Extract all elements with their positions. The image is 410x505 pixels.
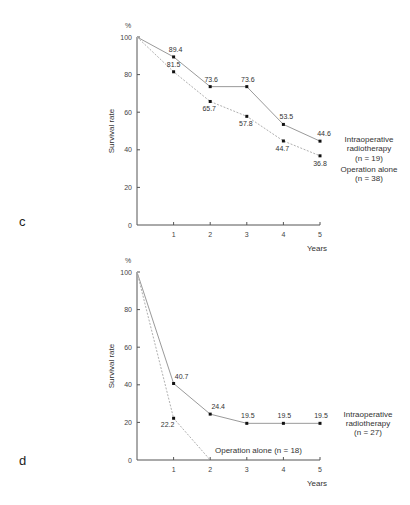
data-point	[319, 140, 322, 143]
x-tick-label: 2	[208, 231, 212, 238]
data-point	[209, 85, 212, 88]
data-label: 40.7	[175, 373, 189, 380]
x-tick-label: 1	[172, 231, 176, 238]
y-tick-label: 40	[124, 146, 132, 153]
panel-label-c: c	[19, 214, 26, 229]
data-point	[319, 154, 322, 157]
y-unit: %	[125, 22, 131, 29]
data-label: 19.5	[241, 412, 255, 419]
series-line-intraoperative	[137, 37, 320, 141]
data-label: 73.6	[204, 76, 218, 83]
x-tick-label: 5	[318, 466, 322, 473]
data-point	[245, 422, 248, 425]
data-label: 53.5	[280, 113, 294, 120]
data-point	[245, 115, 248, 118]
data-label: 44.7	[276, 145, 290, 152]
y-tick-label: 0	[128, 457, 132, 464]
data-label: 65.7	[202, 105, 216, 112]
data-label: 36.8	[313, 160, 327, 167]
data-point	[319, 422, 322, 425]
x-tick-label: 3	[245, 231, 249, 238]
series-line-intraoperative	[137, 272, 320, 423]
legend-operation-alone: Operation alone (n = 18)	[215, 446, 302, 455]
x-tick-label: 4	[281, 466, 285, 473]
figure: 020406080100%12345YearsSurvival rate89.4…	[0, 0, 410, 505]
data-point	[209, 100, 212, 103]
y-axis-title: Survival rate	[107, 108, 116, 153]
legend-intraoperative-n: (n = 19)	[355, 154, 383, 163]
data-label: 19.5	[278, 412, 292, 419]
data-point	[282, 139, 285, 142]
y-tick-label: 20	[124, 184, 132, 191]
chart-c: 020406080100%12345YearsSurvival rate89.4…	[107, 22, 398, 253]
data-point	[282, 123, 285, 126]
data-point	[172, 382, 175, 385]
legend-operation-alone-n: (n = 38)	[355, 174, 383, 183]
y-tick-label: 80	[124, 306, 132, 313]
data-label: 22.2	[161, 421, 175, 428]
y-tick-label: 0	[128, 222, 132, 229]
legend-operation-alone: Operation alone	[341, 165, 398, 174]
data-point	[245, 85, 248, 88]
series-line-operation-alone	[137, 272, 210, 460]
series-line-operation-alone	[137, 37, 320, 156]
data-point	[172, 70, 175, 73]
data-point	[282, 422, 285, 425]
chart-d: 020406080100%12345YearsSurvival rate40.7…	[107, 257, 393, 488]
x-tick-label: 3	[245, 466, 249, 473]
data-label: 24.4	[211, 403, 225, 410]
y-tick-label: 100	[120, 34, 132, 41]
x-axis-title: Years	[307, 244, 327, 253]
x-axis-title: Years	[307, 479, 327, 488]
y-tick-label: 20	[124, 419, 132, 426]
y-tick-label: 40	[124, 381, 132, 388]
panel-label-d: d	[19, 453, 26, 468]
data-point	[209, 413, 212, 416]
y-tick-label: 100	[120, 269, 132, 276]
x-tick-label: 1	[172, 466, 176, 473]
x-tick-label: 4	[281, 231, 285, 238]
data-label: 81.5	[167, 61, 181, 68]
y-tick-label: 60	[124, 344, 132, 351]
data-point	[172, 55, 175, 58]
data-label: 89.4	[169, 46, 183, 53]
data-label: 19.5	[314, 412, 328, 419]
data-label: 44.6	[317, 130, 331, 137]
data-point	[172, 417, 175, 420]
legend-intraoperative: Intraoperative	[344, 410, 393, 419]
legend-intraoperative: Intraoperative	[345, 135, 394, 144]
y-tick-label: 80	[124, 71, 132, 78]
data-label: 57.8	[239, 120, 253, 127]
y-unit: %	[125, 257, 131, 264]
x-tick-label: 2	[208, 466, 212, 473]
y-tick-label: 60	[124, 109, 132, 116]
y-axis-title: Survival rate	[107, 343, 116, 388]
legend-intraoperative: radiotherapy	[346, 419, 390, 428]
x-tick-label: 5	[318, 231, 322, 238]
data-label: 73.6	[241, 76, 255, 83]
legend-intraoperative: radiotherapy	[347, 144, 391, 153]
legend-intraoperative-n: (n = 27)	[354, 428, 382, 437]
